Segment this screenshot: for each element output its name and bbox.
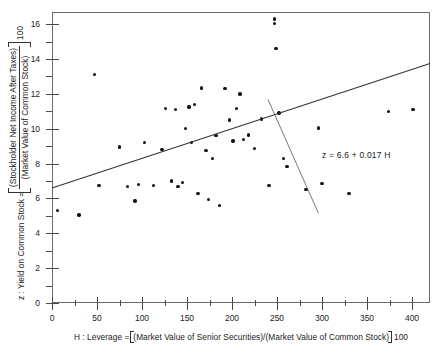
- data-point: [282, 157, 285, 160]
- regression-equation-label: z = 6.6 + 0.017 H: [322, 150, 391, 160]
- data-point: [411, 108, 414, 111]
- x-tick-major: [142, 297, 143, 310]
- y-tick-major: [46, 164, 59, 165]
- data-point: [211, 157, 214, 160]
- y-tick-minor: [46, 181, 52, 182]
- data-point: [273, 22, 276, 25]
- y-tick-minor: [46, 251, 52, 252]
- x-tick-minor: [75, 300, 76, 306]
- data-point: [317, 126, 320, 129]
- data-point: [247, 133, 250, 136]
- y-axis-title-lead: z : Yield on Common Stock =: [16, 192, 26, 300]
- y-axis-multiplier: 100: [15, 26, 25, 40]
- y-tick-minor: [46, 216, 52, 217]
- x-tick-label: 150: [174, 313, 200, 323]
- x-tick-minor: [255, 300, 256, 306]
- x-tick-major: [412, 297, 413, 310]
- y-tick-major: [46, 233, 59, 234]
- x-tick-minor: [210, 300, 211, 306]
- data-point: [273, 17, 276, 20]
- x-tick-major: [322, 297, 323, 310]
- data-point: [274, 47, 277, 50]
- x-tick-label: 200: [219, 313, 245, 323]
- x-axis-bracket: (Market Value of Senior Securities)/(Mar…: [130, 332, 392, 342]
- y-tick-major: [46, 198, 59, 199]
- data-point: [133, 199, 136, 202]
- data-point: [214, 134, 217, 137]
- y-tick-label: 0: [24, 298, 40, 308]
- y-tick-minor: [46, 111, 52, 112]
- data-point: [320, 182, 323, 185]
- x-tick-major: [187, 297, 188, 310]
- y-tick-minor: [46, 286, 52, 287]
- data-point: [347, 192, 350, 195]
- data-point: [176, 185, 179, 188]
- data-point: [228, 118, 231, 121]
- data-point: [223, 87, 226, 90]
- x-axis-expression: (Market Value of Senior Securities)/(Mar…: [133, 332, 389, 342]
- x-tick-label: 0: [39, 313, 65, 323]
- y-axis-numerator: (Stockholder Net Income After Taxes): [9, 46, 19, 189]
- x-tick-label: 50: [84, 313, 110, 323]
- data-point: [277, 111, 280, 114]
- data-point: [285, 165, 288, 168]
- x-tick-label: 250: [264, 313, 290, 323]
- x-tick-major: [232, 297, 233, 310]
- data-point: [196, 192, 199, 195]
- x-axis-title: H : Leverage = (Market Value of Senior S…: [52, 332, 430, 342]
- x-axis-multiplier: 100: [394, 332, 408, 342]
- y-tick-label: 2: [24, 263, 40, 273]
- y-axis-title-lead-group: z : Yield on Common Stock =: [16, 192, 26, 300]
- data-point: [193, 103, 196, 106]
- data-point: [118, 145, 121, 148]
- x-tick-major: [97, 297, 98, 310]
- x-tick-major: [277, 297, 278, 310]
- x-axis-title-lead: H : Leverage =: [74, 332, 129, 342]
- data-point: [200, 86, 203, 89]
- x-tick-minor: [120, 300, 121, 306]
- y-tick-minor: [46, 146, 52, 147]
- x-tick-label: 100: [129, 313, 155, 323]
- x-tick-minor: [390, 300, 391, 306]
- y-tick-minor: [46, 42, 52, 43]
- data-point: [238, 92, 241, 95]
- data-point: [267, 184, 270, 187]
- y-axis-title-fraction-group: (Stockholder Net Income After Taxes) (Ma…: [8, 26, 31, 193]
- data-point: [204, 149, 207, 152]
- y-tick-major: [46, 94, 59, 95]
- y-axis-fraction: (Stockholder Net Income After Taxes) (Ma…: [9, 46, 30, 189]
- data-point: [160, 148, 163, 151]
- y-axis-denominator: (Market Value of Common Stock): [20, 54, 30, 182]
- y-tick-major: [46, 268, 59, 269]
- x-tick-major: [367, 297, 368, 310]
- x-tick-label: 350: [354, 313, 380, 323]
- data-point: [231, 139, 234, 142]
- x-tick-minor: [165, 300, 166, 306]
- x-tick-label: 300: [309, 313, 335, 323]
- x-tick-minor: [300, 300, 301, 306]
- y-tick-minor: [46, 76, 52, 77]
- y-tick-major: [46, 24, 59, 25]
- y-tick-major: [46, 59, 59, 60]
- x-tick-major: [52, 297, 53, 310]
- y-axis-bracket: (Stockholder Net Income After Taxes) (Ma…: [8, 42, 31, 193]
- y-tick-label: 6: [24, 193, 40, 203]
- y-tick-major: [46, 129, 59, 130]
- scatter-plot-figure: 0246810121416 050100150200250300350400 z…: [0, 0, 442, 360]
- data-point: [97, 184, 100, 187]
- y-tick-label: 4: [24, 228, 40, 238]
- x-tick-minor: [345, 300, 346, 306]
- x-tick-label: 400: [399, 313, 425, 323]
- data-point: [77, 213, 80, 216]
- data-point: [187, 105, 190, 108]
